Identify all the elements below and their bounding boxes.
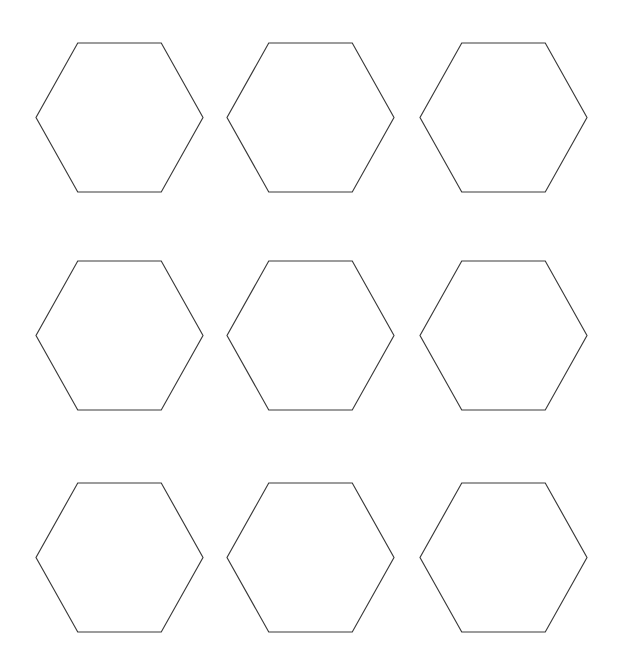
hexagon-r2-c2-outline (227, 261, 394, 410)
hexagon-r3-c1-outline (36, 483, 203, 632)
hexagon-r3-c3 (420, 483, 587, 632)
hexagon-r1-c1-svg (36, 43, 203, 192)
hexagon-r1-c2-svg (227, 43, 394, 192)
hexagon-r2-c2 (227, 261, 394, 410)
hexagon-r1-c3-outline (420, 43, 587, 192)
hexagon-r3-c3-outline (420, 483, 587, 632)
hexagon-r1-c2-outline (227, 43, 394, 192)
hexagon-r2-c1-svg (36, 261, 203, 410)
hexagon-r2-c1-outline (36, 261, 203, 410)
hexagon-r2-c1 (36, 261, 203, 410)
hexagon-r1-c3 (420, 43, 587, 192)
hexagon-r2-c3 (420, 261, 587, 410)
hexagon-r2-c3-outline (420, 261, 587, 410)
hexagon-template-sheet (0, 0, 619, 668)
hexagon-grid (0, 0, 619, 668)
hexagon-r3-c2-svg (227, 483, 394, 632)
hexagon-r2-c2-svg (227, 261, 394, 410)
hexagon-r3-c3-svg (420, 483, 587, 632)
hexagon-r3-c1 (36, 483, 203, 632)
hexagon-r1-c1 (36, 43, 203, 192)
hexagon-r1-c3-svg (420, 43, 587, 192)
hexagon-r3-c2 (227, 483, 394, 632)
hexagon-r3-c2-outline (227, 483, 394, 632)
hexagon-r1-c2 (227, 43, 394, 192)
hexagon-r2-c3-svg (420, 261, 587, 410)
hexagon-r3-c1-svg (36, 483, 203, 632)
hexagon-r1-c1-outline (36, 43, 203, 192)
